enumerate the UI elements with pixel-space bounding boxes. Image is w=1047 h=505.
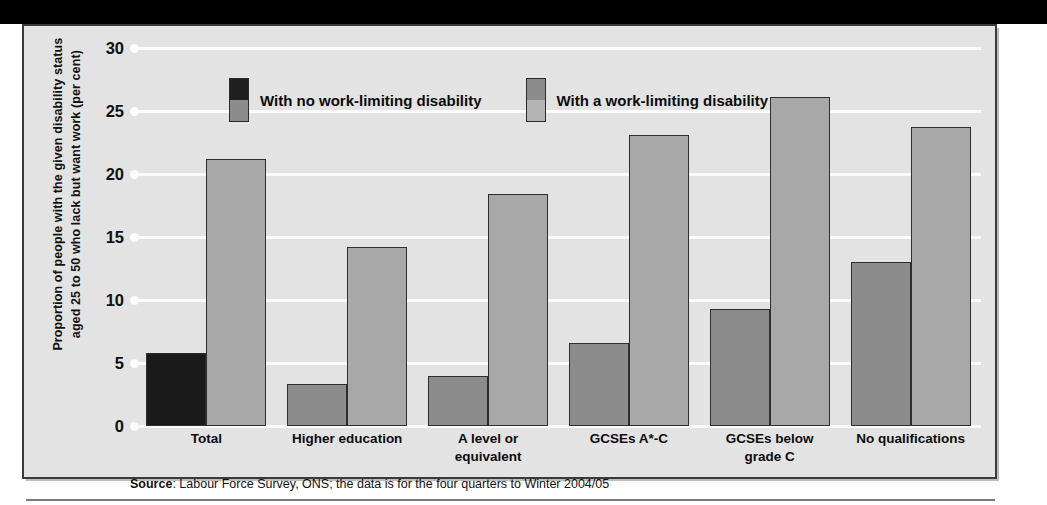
category-label-line: A level or xyxy=(418,430,559,448)
legend-swatch-icon xyxy=(229,78,249,122)
source-text: : Labour Force Survey, ONS; the data is … xyxy=(172,477,609,491)
bar[interactable] xyxy=(629,135,689,426)
category-label-line: GCSEs A*-C xyxy=(558,430,699,448)
y-tick-label: 10 xyxy=(106,291,124,310)
bar[interactable] xyxy=(146,353,206,426)
legend-swatch-icon xyxy=(526,78,546,122)
y-tick-label: 15 xyxy=(106,228,124,247)
category-label: GCSEs belowgrade C xyxy=(699,430,840,466)
bar-group xyxy=(840,48,981,426)
bar[interactable] xyxy=(770,97,830,426)
category-label-line: equivalent xyxy=(418,448,559,466)
source-label: Source xyxy=(130,477,172,491)
bar[interactable] xyxy=(710,309,770,426)
y-tick-label: 0 xyxy=(115,417,124,436)
chart-root: Proportion of people with the given disa… xyxy=(0,0,1047,505)
category-axis: TotalHigher educationA level orequivalen… xyxy=(136,430,981,466)
bar[interactable] xyxy=(206,159,266,426)
category-label: Total xyxy=(136,430,277,466)
category-label-line: GCSEs below xyxy=(699,430,840,448)
bar[interactable] xyxy=(287,384,347,426)
bar[interactable] xyxy=(569,343,629,426)
title-band xyxy=(0,0,1047,24)
legend-item[interactable]: With a work-limiting disability xyxy=(526,78,769,122)
source-divider xyxy=(26,499,995,501)
y-tick-label: 30 xyxy=(106,39,124,58)
category-label-line: Total xyxy=(136,430,277,448)
category-label-line: No qualifications xyxy=(840,430,981,448)
bar[interactable] xyxy=(347,247,407,426)
bar[interactable] xyxy=(851,262,911,426)
bar[interactable] xyxy=(911,127,971,426)
legend-item[interactable]: With no work-limiting disability xyxy=(229,78,482,122)
chart-panel: Proportion of people with the given disa… xyxy=(22,24,997,479)
category-label: GCSEs A*-C xyxy=(558,430,699,466)
bar[interactable] xyxy=(428,376,488,426)
chart-legend: With no work-limiting disabilityWith a w… xyxy=(229,78,768,122)
legend-label: With a work-limiting disability xyxy=(557,92,769,109)
bar-pair xyxy=(840,48,981,426)
source-note: Source: Labour Force Survey, ONS; the da… xyxy=(130,477,970,491)
category-label: Higher education xyxy=(277,430,418,466)
y-axis-title: Proportion of people with the given disa… xyxy=(49,29,85,359)
category-label: No qualifications xyxy=(840,430,981,466)
bar[interactable] xyxy=(488,194,548,426)
category-label: A level orequivalent xyxy=(418,430,559,466)
category-label-line: grade C xyxy=(699,448,840,466)
y-tick-label: 20 xyxy=(106,165,124,184)
y-tick-label: 5 xyxy=(115,354,124,373)
legend-label: With no work-limiting disability xyxy=(260,92,482,109)
y-tick-label: 25 xyxy=(106,102,124,121)
category-label-line: Higher education xyxy=(277,430,418,448)
